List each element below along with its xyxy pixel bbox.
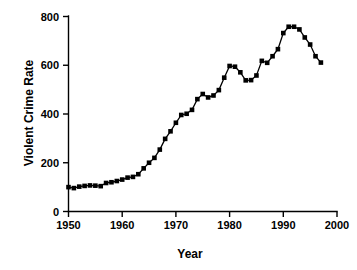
data-point <box>286 24 291 29</box>
data-point <box>120 177 125 182</box>
x-tick-label-1980: 1980 <box>217 219 241 231</box>
data-point <box>72 186 77 191</box>
data-point <box>227 64 232 69</box>
data-point <box>157 147 162 152</box>
data-point <box>141 166 146 171</box>
data-point <box>82 184 87 189</box>
data-point <box>190 108 195 113</box>
data-point <box>98 184 103 189</box>
data-point <box>200 92 205 97</box>
data-point <box>184 111 189 116</box>
x-tick-label-2000: 2000 <box>325 219 349 231</box>
y-tick-label-400: 400 <box>41 108 59 120</box>
data-point <box>281 31 286 36</box>
x-tick-label-1960: 1960 <box>110 219 134 231</box>
data-point <box>195 97 200 102</box>
y-tick-label-800: 800 <box>41 11 59 23</box>
data-point <box>109 180 114 185</box>
data-point <box>93 183 98 188</box>
data-point <box>88 183 93 188</box>
data-point <box>66 185 71 190</box>
x-axis-title: Year <box>177 247 203 261</box>
y-tick-label-0: 0 <box>53 206 59 218</box>
data-point <box>104 181 109 186</box>
x-tick-label-1990: 1990 <box>271 219 295 231</box>
data-point <box>238 70 243 75</box>
data-point <box>276 47 281 52</box>
data-point <box>313 54 318 59</box>
chart-figure: 800 600 400 200 0 1950 1960 1970 1980 19… <box>0 0 357 270</box>
data-point <box>152 156 157 161</box>
data-point <box>147 160 152 165</box>
violent-crime-rate-line-chart: 800 600 400 200 0 1950 1960 1970 1980 19… <box>0 0 357 270</box>
x-tick-label-1950: 1950 <box>56 219 80 231</box>
data-point <box>222 75 227 80</box>
data-point <box>211 93 216 98</box>
data-point <box>297 27 302 32</box>
data-point <box>319 60 324 65</box>
data-point <box>217 88 222 93</box>
data-point <box>243 78 248 83</box>
x-tick-label-1970: 1970 <box>164 219 188 231</box>
data-point <box>233 64 238 69</box>
data-point <box>265 61 270 66</box>
y-tick-label-200: 200 <box>41 157 59 169</box>
data-point <box>136 172 141 177</box>
data-point <box>77 184 82 189</box>
data-point <box>125 175 130 180</box>
data-point <box>260 59 265 64</box>
data-point <box>292 24 297 29</box>
data-point <box>270 54 275 59</box>
data-point <box>249 78 254 83</box>
y-tick-label-600: 600 <box>41 59 59 71</box>
data-point <box>254 73 259 78</box>
data-point <box>174 120 179 125</box>
data-point <box>115 179 120 184</box>
data-point <box>179 113 184 118</box>
y-axis-title: Violent Crime Rate <box>22 59 36 166</box>
data-point <box>302 35 307 40</box>
data-point <box>206 95 211 100</box>
data-point <box>308 42 313 47</box>
data-point <box>168 129 173 134</box>
data-point <box>163 137 168 142</box>
data-point <box>131 175 136 180</box>
